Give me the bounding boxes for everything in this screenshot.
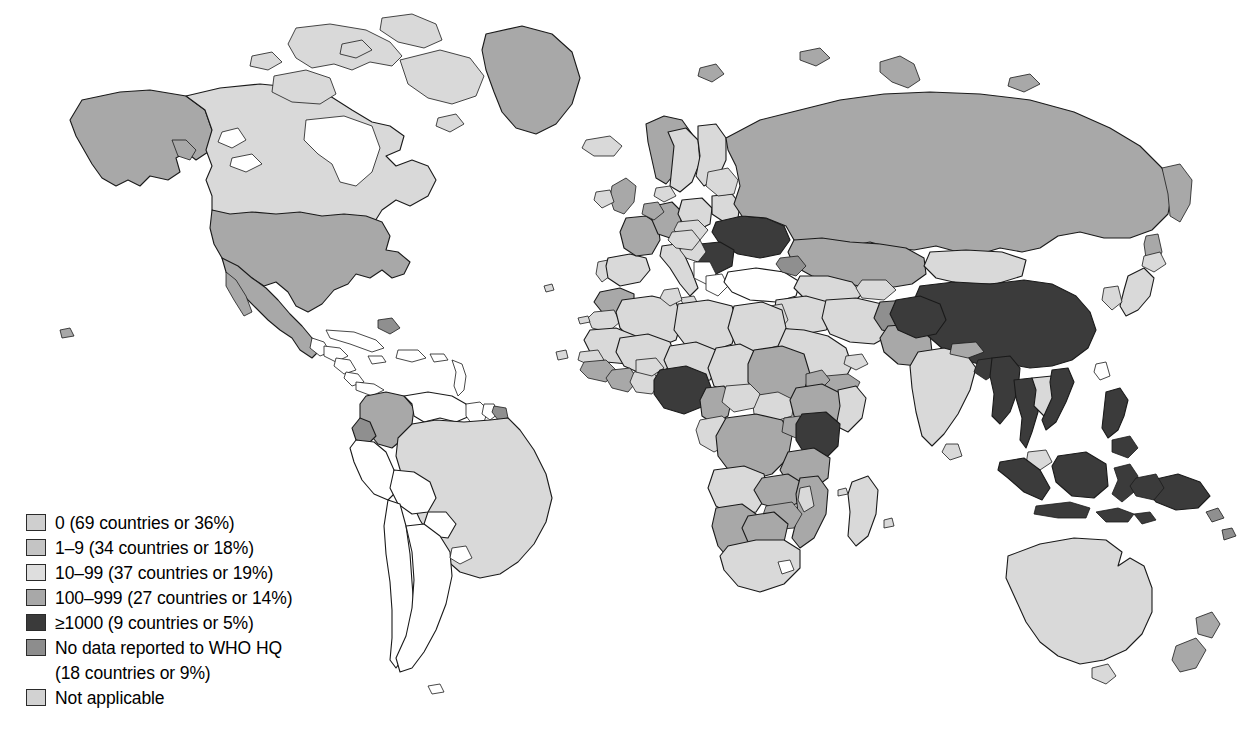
legend-item-1000-plus[interactable]: ≥1000 (9 countries or 5%) [26, 611, 356, 636]
legend-item-not-applicable[interactable]: Not applicable [26, 686, 356, 711]
legend-label-100-999: 100–999 (27 countries or 14%) [55, 586, 292, 610]
legend-label-10-99: 10–99 (37 countries or 19%) [55, 561, 273, 585]
legend-swatch-100-999 [26, 589, 46, 606]
legend-item-1-9[interactable]: 1–9 (34 countries or 18%) [26, 536, 356, 561]
legend-label-not-applicable: Not applicable [55, 686, 165, 710]
legend-label-no-data-continued: (18 countries or 9%) [55, 661, 211, 685]
legend-swatch-1000-plus [26, 614, 46, 631]
legend-item-no-data-continued: (18 countries or 9%) [26, 661, 356, 686]
legend-label-0: 0 (69 countries or 36%) [55, 511, 235, 535]
legend-swatch-not-applicable [26, 689, 46, 706]
legend-label-1000-plus: ≥1000 (9 countries or 5%) [55, 611, 254, 635]
legend-swatch-spacer [26, 664, 46, 681]
legend-item-100-999[interactable]: 100–999 (27 countries or 14%) [26, 586, 356, 611]
legend-swatch-10-99 [26, 564, 46, 581]
country-mongolia[interactable] [924, 250, 1026, 284]
world-map-figure: 0 (69 countries or 36%) 1–9 (34 countrie… [0, 0, 1238, 740]
legend-item-no-data[interactable]: No data reported to WHO HQ [26, 636, 356, 661]
map-legend: 0 (69 countries or 36%) 1–9 (34 countrie… [26, 511, 356, 711]
island-cape-verde[interactable] [556, 350, 568, 360]
legend-swatch-1-9 [26, 539, 46, 556]
legend-label-no-data: No data reported to WHO HQ [55, 636, 282, 660]
legend-swatch-0 [26, 514, 46, 531]
legend-item-0[interactable]: 0 (69 countries or 36%) [26, 511, 356, 536]
island-mauritius[interactable] [884, 518, 894, 528]
legend-item-10-99[interactable]: 10–99 (37 countries or 19%) [26, 561, 356, 586]
legend-swatch-no-data [26, 639, 46, 656]
legend-label-1-9: 1–9 (34 countries or 18%) [55, 536, 254, 560]
